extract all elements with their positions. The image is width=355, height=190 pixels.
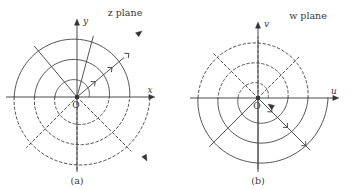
panel-caption: (a) (70, 175, 83, 186)
origin-label: O (253, 101, 260, 111)
spiral-arc-solid-0 (55, 80, 90, 97)
radial-ray-135deg (213, 53, 258, 98)
chevron-ray-40-outer (125, 53, 129, 57)
spiral-arc-dashed-5 (14, 97, 150, 165)
horizontal-axis-label: x (147, 85, 152, 95)
origin-dot (256, 96, 260, 100)
vertical-axis-arrowhead (255, 22, 260, 28)
radial-ray-225deg (210, 98, 258, 146)
spiral-arc-solid-4 (14, 39, 130, 97)
plane-label: z plane (108, 7, 143, 18)
radial-ray-315deg (258, 98, 310, 150)
radial-ray-45deg (258, 57, 299, 98)
vertical-axis-label: v (264, 19, 269, 29)
origin-label: O (72, 100, 79, 110)
radial-ray-75deg (77, 36, 93, 97)
complex-plane-mapping-diagram: yxOz plane(a)vuOw plane(b) (0, 0, 355, 190)
spiral-arrow-lower-right (142, 154, 147, 161)
axes-a (6, 19, 155, 172)
horizontal-axis-arrowhead (333, 95, 339, 100)
spiral-arrow-upper-right (136, 31, 142, 37)
axes-b (190, 22, 339, 172)
spiral-arc-dashed-0 (238, 83, 268, 98)
vertical-axis-arrowhead (74, 19, 79, 25)
spiral-arc-solid-3 (218, 98, 308, 143)
spiral-arc-dashed-4 (198, 43, 308, 98)
horizontal-axis-label: u (331, 86, 337, 96)
plane-label: w plane (289, 10, 327, 21)
spiral-arrowheads-a (136, 31, 147, 161)
radial-ray-40deg (77, 58, 124, 97)
vertical-axis-label: y (82, 16, 89, 26)
panel-a: yxOz plane(a) (6, 7, 155, 186)
origin-dot (75, 95, 79, 99)
radial-ray-130deg (35, 46, 77, 97)
panel-caption: (b) (251, 175, 265, 186)
panel-b: vuOw plane(b) (190, 10, 339, 186)
spiral-arc-solid-5 (198, 98, 328, 163)
figure-container: yxOz plane(a)vuOw plane(b) (0, 0, 355, 190)
spiral-arc-dashed-3 (34, 97, 129, 145)
